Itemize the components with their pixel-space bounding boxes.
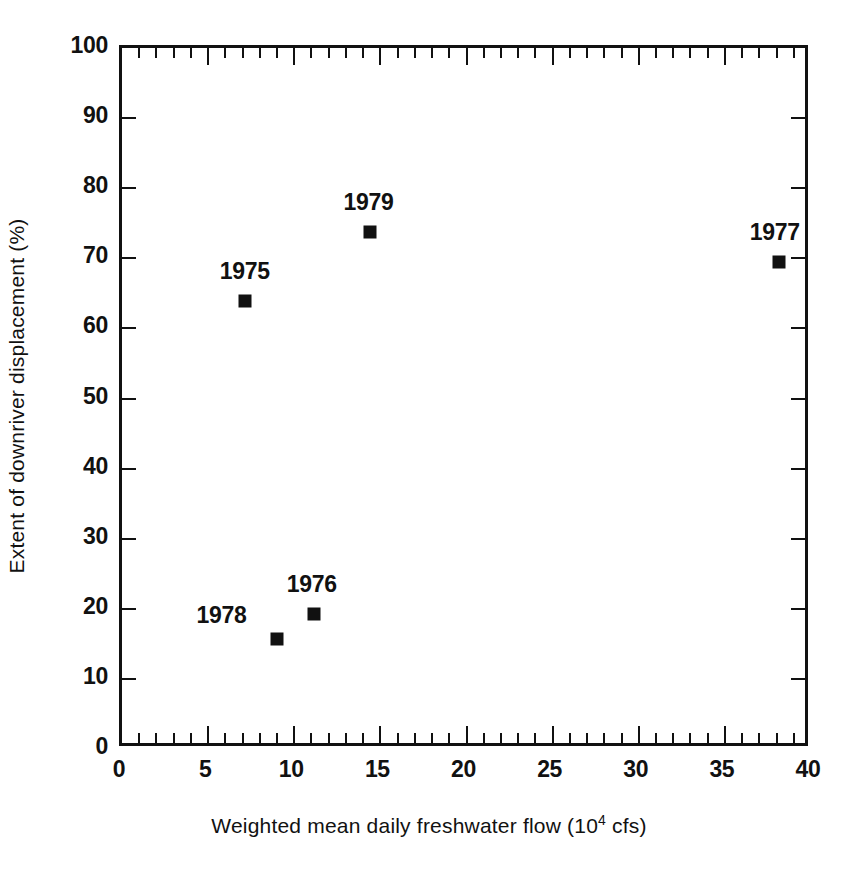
data-point-1976 [307, 607, 320, 620]
x-axis-tick-top [638, 48, 640, 65]
x-axis-tick-label: 35 [709, 756, 734, 783]
x-axis-tick-top [655, 48, 657, 58]
x-axis-tick-bottom [552, 726, 554, 743]
x-axis-tick-bottom [328, 733, 330, 743]
data-point-1979 [364, 226, 377, 239]
x-axis-tick-top [328, 48, 330, 58]
x-axis-tick-bottom [138, 733, 140, 743]
x-axis-title: Weighted mean daily freshwater flow (104… [0, 812, 858, 838]
x-axis-tick-top [310, 48, 312, 58]
x-axis-tick-bottom [379, 726, 381, 743]
y-axis-title-container: Extent of downriver displacement (%) [0, 45, 34, 746]
x-axis-tick-label: 10 [279, 756, 304, 783]
y-axis-tick-label: 30 [40, 522, 108, 549]
x-axis-tick-label: 15 [365, 756, 390, 783]
y-axis-tick-right [791, 608, 805, 610]
x-axis-tick-bottom [293, 726, 295, 743]
x-axis-tick-bottom [707, 733, 709, 743]
y-axis-tick-left [122, 398, 136, 400]
y-axis-tick-label: 60 [40, 312, 108, 339]
x-axis-tick-top [242, 48, 244, 58]
x-axis-tick-top [689, 48, 691, 58]
x-axis-tick-bottom [689, 733, 691, 743]
x-axis-tick-bottom [155, 733, 157, 743]
y-axis-tick-label: 70 [40, 242, 108, 269]
x-axis-tick-top [173, 48, 175, 58]
y-axis-tick-label: 80 [40, 172, 108, 199]
data-point-1978 [271, 633, 284, 646]
data-point-label-1977: 1977 [750, 218, 800, 245]
y-axis-tick-right [791, 187, 805, 189]
x-axis-tick-bottom [431, 733, 433, 743]
plot-area [119, 45, 808, 746]
x-axis-tick-bottom [242, 733, 244, 743]
y-axis-tick-label: 0 [40, 733, 108, 760]
x-axis-tick-bottom [414, 733, 416, 743]
data-point-1975 [238, 294, 251, 307]
data-point-label-1979: 1979 [344, 189, 394, 216]
y-axis-tick-label: 100 [40, 32, 108, 59]
y-axis-tick-left [122, 117, 136, 119]
x-axis-tick-top [534, 48, 536, 58]
x-axis-tick-bottom [345, 733, 347, 743]
x-axis-tick-bottom [310, 733, 312, 743]
x-axis-tick-top [362, 48, 364, 58]
x-axis-tick-bottom [276, 733, 278, 743]
x-axis-tick-bottom [259, 733, 261, 743]
x-axis-tick-bottom [672, 733, 674, 743]
x-axis-tick-top [448, 48, 450, 58]
x-axis-tick-top [586, 48, 588, 58]
x-axis-tick-top [500, 48, 502, 58]
data-point-1977 [772, 255, 785, 268]
x-axis-tick-label: 40 [796, 756, 821, 783]
x-axis-tick-bottom [638, 726, 640, 743]
x-axis-tick-bottom [517, 733, 519, 743]
x-axis-tick-bottom [776, 733, 778, 743]
data-point-label-1976: 1976 [287, 570, 337, 597]
y-axis-tick-label: 20 [40, 592, 108, 619]
x-axis-tick-top [707, 48, 709, 58]
x-axis-tick-top [155, 48, 157, 58]
x-axis-tick-top [224, 48, 226, 58]
x-axis-tick-bottom [534, 733, 536, 743]
x-axis-tick-bottom [758, 733, 760, 743]
x-axis-tick-top [741, 48, 743, 58]
x-axis-tick-bottom [569, 733, 571, 743]
y-axis-tick-right [791, 468, 805, 470]
y-axis-tick-right [791, 678, 805, 680]
x-axis-title-text: Weighted mean daily freshwater flow (10 [211, 814, 598, 837]
x-axis-tick-bottom [362, 733, 364, 743]
x-axis-tick-top [517, 48, 519, 58]
y-axis-tick-left [122, 678, 136, 680]
y-axis-tick-label: 10 [40, 662, 108, 689]
x-axis-tick-top [397, 48, 399, 58]
x-axis-tick-label: 25 [537, 756, 562, 783]
x-axis-tick-bottom [397, 733, 399, 743]
x-axis-tick-top [259, 48, 261, 58]
x-axis-title-exponent: 4 [598, 812, 606, 828]
x-axis-tick-bottom [724, 726, 726, 743]
x-axis-tick-top [345, 48, 347, 58]
x-axis-tick-top [483, 48, 485, 58]
x-axis-tick-label: 0 [113, 756, 126, 783]
y-axis-tick-left [122, 257, 136, 259]
x-axis-tick-top [758, 48, 760, 58]
x-axis-tick-bottom [500, 733, 502, 743]
x-axis-tick-top [276, 48, 278, 58]
data-point-label-1975: 1975 [220, 257, 270, 284]
x-axis-tick-top [190, 48, 192, 58]
y-axis-tick-left [122, 468, 136, 470]
y-axis-tick-right [791, 538, 805, 540]
x-axis-tick-top [207, 48, 209, 65]
y-axis-tick-right [791, 257, 805, 259]
x-axis-tick-top [466, 48, 468, 65]
x-axis-tick-bottom [483, 733, 485, 743]
x-axis-tick-bottom [207, 726, 209, 743]
x-axis-tick-label: 5 [199, 756, 212, 783]
x-axis-tick-top [138, 48, 140, 58]
y-axis-tick-label: 50 [40, 382, 108, 409]
x-axis-tick-bottom [448, 733, 450, 743]
x-axis-tick-top [621, 48, 623, 58]
x-axis-tick-top [603, 48, 605, 58]
x-axis-tick-top [569, 48, 571, 58]
